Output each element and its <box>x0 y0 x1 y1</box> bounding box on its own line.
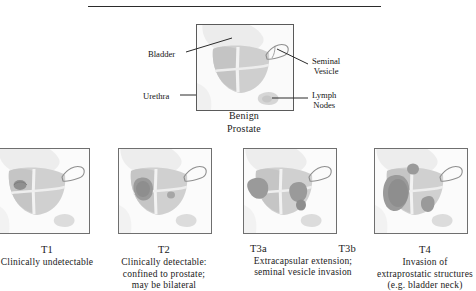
anatomy-illustration-t4 <box>375 149 467 233</box>
stage-desc-t3-line1: Extracapsular extension; <box>240 256 366 268</box>
panel-stage-t3 <box>243 148 337 234</box>
caption-stage-t3: T3a T3b Extracapsular extension; seminal… <box>240 243 366 279</box>
label-lymph-line2: Nodes <box>312 100 336 110</box>
top-divider-rule <box>88 6 381 7</box>
stage-label-t4: T4 <box>366 243 476 256</box>
stage-label-t3b: T3b <box>338 243 356 255</box>
stage-label-t3a: T3a <box>250 243 267 255</box>
stage-label-t1: T1 <box>0 243 106 256</box>
stage-desc-t1-line1: Clinically undetectable <box>0 257 106 269</box>
tumor-focus <box>14 180 27 190</box>
stage-desc-t2-line3: may be bilateral <box>112 280 216 291</box>
panel-stage-t2 <box>118 148 212 234</box>
label-urethra-text: Urethra <box>143 91 169 101</box>
stage-desc-t3-line2: seminal vesicle invasion <box>240 267 366 279</box>
label-seminal-vesicle: Seminal Vesicle <box>312 56 340 76</box>
caption-benign-line2: Prostate <box>186 123 302 136</box>
stage-desc-t4-line1: Invasion of <box>366 257 476 269</box>
anatomy-illustration-t1 <box>0 149 89 233</box>
stage-desc-t2-line1: Clinically detectable: <box>112 257 216 269</box>
stage-desc-t4-line3: (e.g. bladder neck) <box>366 280 476 291</box>
anatomy-illustration-t2 <box>119 149 211 233</box>
label-seminal-line2: Vesicle <box>312 66 340 76</box>
caption-stage-t2: T2 Clinically detectable: confined to pr… <box>112 243 216 291</box>
caption-stage-t1: T1 Clinically undetectable <box>0 243 106 269</box>
stage-label-t2: T2 <box>112 243 216 256</box>
panel-stage-t1 <box>0 148 90 234</box>
tumor-bladder-neck <box>407 164 419 175</box>
panel-benign-prostate <box>196 24 294 111</box>
label-seminal-line1: Seminal <box>312 56 340 66</box>
stage-desc-t2-line2: confined to prostate; <box>112 269 216 281</box>
label-urethra: Urethra <box>143 91 169 101</box>
label-bladder-text: Bladder <box>148 49 175 59</box>
label-lymph-nodes: Lymph Nodes <box>312 90 336 110</box>
stage-desc-t4-line2: extraprostatic structures <box>366 269 476 281</box>
tumor-deposit-right <box>421 196 435 212</box>
caption-benign-line1: Benign <box>186 110 302 123</box>
caption-stage-t4: T4 Invasion of extraprostatic structures… <box>366 243 476 291</box>
tumor-secondary <box>167 192 175 199</box>
caption-benign-prostate: Benign Prostate <box>186 110 302 135</box>
stage-label-row-t3: T3a T3b <box>240 243 366 255</box>
label-bladder: Bladder <box>148 49 175 59</box>
figure-root: Bladder Urethra Seminal Vesicle Lymph No… <box>0 0 476 291</box>
label-lymph-line1: Lymph <box>312 90 336 100</box>
panel-stage-t4 <box>374 148 468 234</box>
anatomy-illustration-t3 <box>244 149 336 233</box>
anatomy-illustration-benign <box>197 25 293 110</box>
